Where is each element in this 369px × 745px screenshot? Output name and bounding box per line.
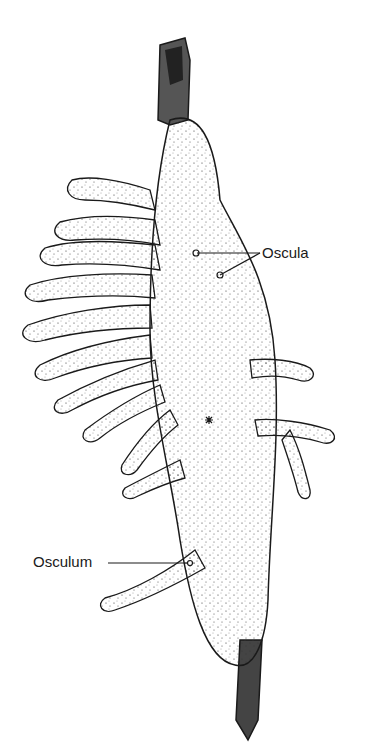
label-oscula: Oscula <box>262 244 309 261</box>
label-osculum: Osculum <box>33 553 92 570</box>
branch-top <box>158 38 190 125</box>
sponge-illustration <box>0 0 369 745</box>
